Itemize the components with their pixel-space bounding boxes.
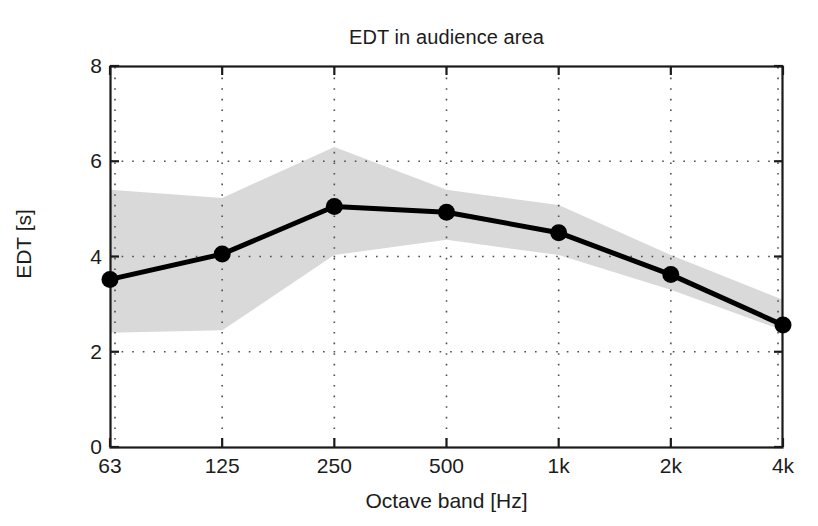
- x-tick-label: 250: [294, 455, 374, 476]
- x-tick-label: 125: [182, 455, 262, 476]
- x-tick-label: 63: [70, 455, 150, 476]
- x-tick-labels: 631252505001k2k4k: [0, 0, 818, 526]
- x-tick-label: 500: [407, 455, 487, 476]
- x-axis-label: Octave band [Hz]: [110, 489, 783, 513]
- x-tick-label: 2k: [631, 455, 711, 476]
- chart-figure: EDT in audience area 02468 631252505001k…: [0, 0, 818, 526]
- y-axis-label: EDT [s]: [12, 184, 36, 304]
- x-tick-label: 1k: [519, 455, 599, 476]
- x-tick-label: 4k: [743, 455, 818, 476]
